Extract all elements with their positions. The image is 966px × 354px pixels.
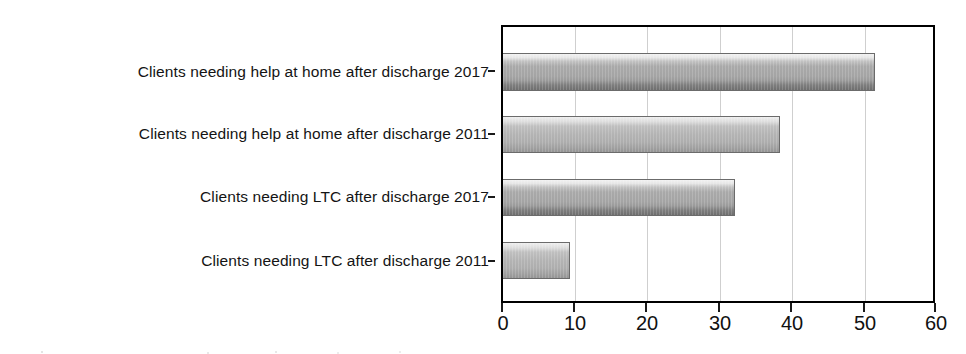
category-tick-ltc-2017 [488,196,495,198]
category-tick-help-at-home-2011 [488,133,495,135]
category-label-help-at-home-2017: Clients needing help at home after disch… [138,64,489,80]
horizontal-bar-chart: Clients needing help at home after disch… [0,0,966,354]
bar-help-at-home-2017[interactable] [503,53,875,91]
category-axis-labels: Clients needing help at home after disch… [0,0,495,354]
xtick-mark-20 [645,303,647,312]
xtick-mark-60 [934,303,936,312]
bar-ltc-2011[interactable] [503,242,570,279]
xtick-mark-0 [501,303,503,312]
category-label-ltc-2017: Clients needing LTC after discharge 2017 [200,189,489,205]
category-tick-help-at-home-2017 [488,70,495,72]
category-tick-ltc-2011 [488,260,495,262]
xtick-label-40: 40 [781,313,803,333]
xtick-label-10: 10 [564,313,586,333]
bar-ltc-2017[interactable] [503,179,735,216]
xtick-label-20: 20 [636,313,658,333]
category-label-ltc-2011: Clients needing LTC after discharge 2011 [201,253,489,269]
xtick-mark-50 [863,303,865,312]
xtick-mark-40 [790,303,792,312]
xtick-mark-30 [718,303,720,312]
xtick-label-50: 50 [854,313,876,333]
category-label-help-at-home-2011: Clients needing help at home after disch… [139,126,489,142]
bar-help-at-home-2011[interactable] [503,116,780,153]
plot-inner [503,27,933,301]
plot-area [501,25,935,303]
xtick-label-0: 0 [497,313,508,333]
xtick-label-30: 30 [709,313,731,333]
xtick-mark-10 [573,303,575,312]
xtick-label-60: 60 [925,313,947,333]
scan-artifact [8,346,428,354]
